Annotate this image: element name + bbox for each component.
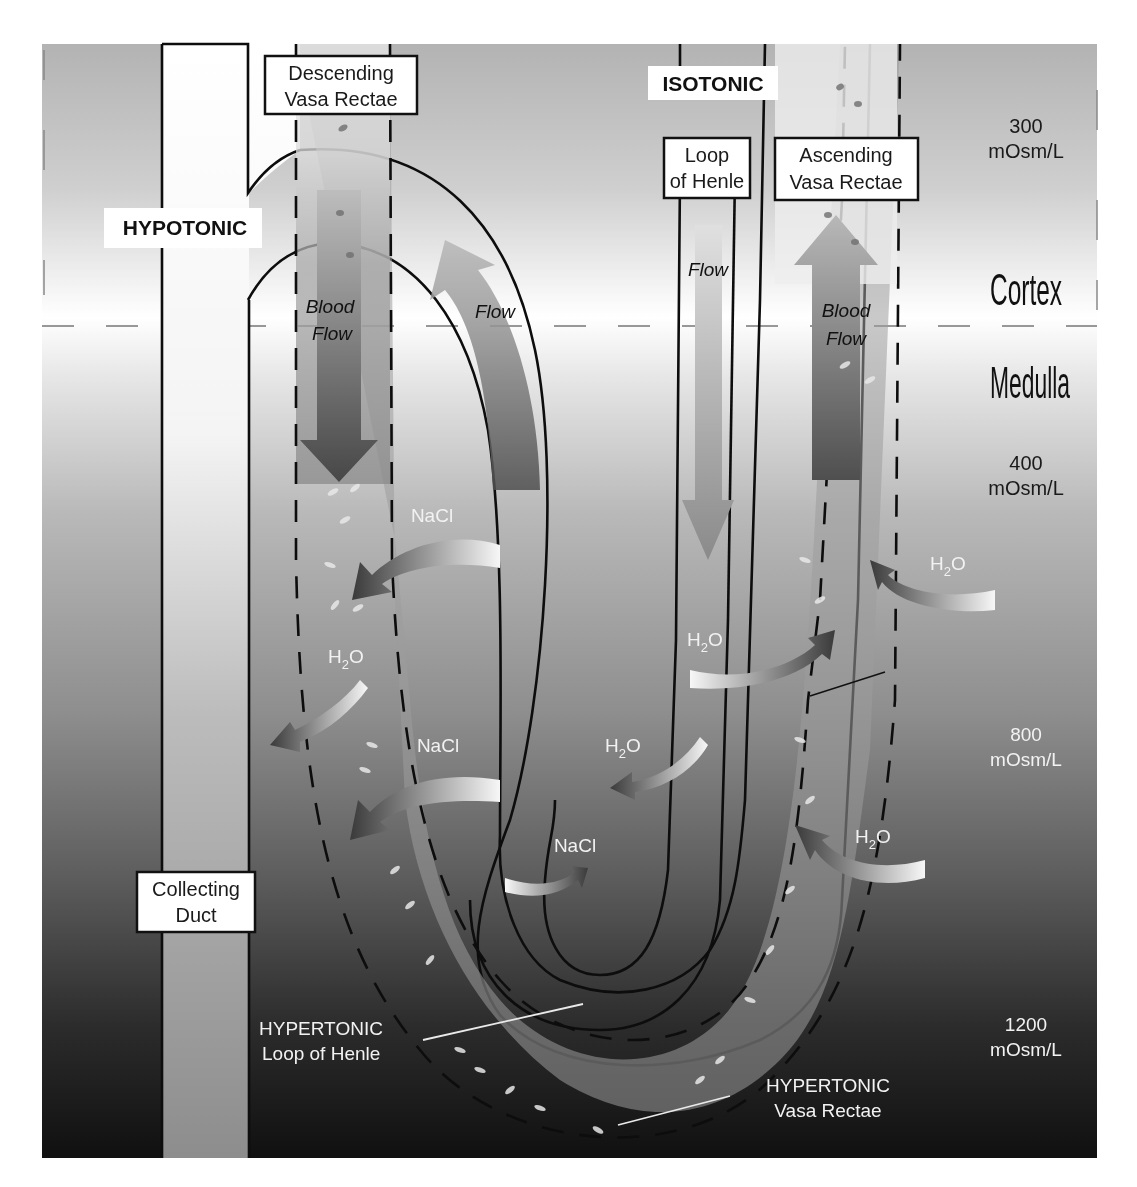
tag-isotonic: ISOTONIC xyxy=(648,66,778,100)
label-nacl-2: NaCl xyxy=(417,735,459,756)
label-line: Ascending xyxy=(799,144,892,166)
tag-text: ISOTONIC xyxy=(662,72,763,95)
label-line: Vasa Rectae xyxy=(789,171,902,193)
label-loop-of-henle: Loop of Henle xyxy=(664,138,750,198)
label-descending-vasa-rectae: Descending Vasa Rectae xyxy=(265,56,417,114)
osm-unit: mOsm/L xyxy=(990,749,1062,770)
label-ascending-blood: Blood xyxy=(822,300,872,321)
osm-unit: mOsm/L xyxy=(988,477,1064,499)
label-loop-flow-left: Flow xyxy=(475,301,516,322)
label-descending-blood: Blood xyxy=(306,296,356,317)
zone-label-cortex: Cortex xyxy=(990,265,1062,314)
zone-label-medulla: Medulla xyxy=(990,358,1070,407)
osm-value: 400 xyxy=(1009,452,1042,474)
label-line: Vasa Rectae xyxy=(774,1100,881,1121)
tag-text: HYPOTONIC xyxy=(123,216,247,239)
label-line: HYPERTONIC xyxy=(259,1018,383,1039)
osm-unit: mOsm/L xyxy=(988,140,1064,162)
tag-hypotonic: HYPOTONIC xyxy=(104,208,262,248)
label-descending-flow: Flow xyxy=(312,323,353,344)
label-loop-flow-right: Flow xyxy=(688,259,729,280)
osm-value: 800 xyxy=(1010,724,1042,745)
countercurrent-diagram: Descending Vasa Rectae ISOTONIC Loop of … xyxy=(0,0,1137,1187)
label-line: Descending xyxy=(288,62,394,84)
label-ascending-flow: Flow xyxy=(826,328,867,349)
label-collecting-duct: Collecting Duct xyxy=(137,872,255,932)
label-line: of Henle xyxy=(670,170,745,192)
label-ascending-vasa-rectae: Ascending Vasa Rectae xyxy=(775,138,918,200)
label-nacl-1: NaCl xyxy=(411,505,453,526)
label-line: HYPERTONIC xyxy=(766,1075,890,1096)
label-line: Loop of Henle xyxy=(262,1043,380,1064)
label-line: Duct xyxy=(175,904,217,926)
label-line: Loop xyxy=(685,144,730,166)
osm-unit: mOsm/L xyxy=(990,1039,1062,1060)
osm-value: 300 xyxy=(1009,115,1042,137)
label-line: Collecting xyxy=(152,878,240,900)
osm-value: 1200 xyxy=(1005,1014,1047,1035)
label-nacl-3: NaCl xyxy=(554,835,596,856)
label-line: Vasa Rectae xyxy=(284,88,397,110)
